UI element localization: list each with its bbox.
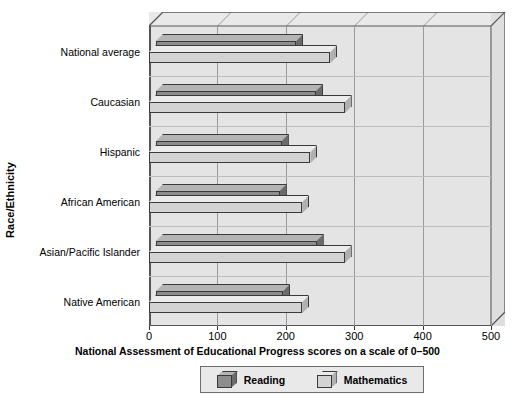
- plot-3d-top-face: [149, 12, 505, 26]
- y-axis-label-2: Hispanic: [100, 146, 140, 158]
- bar-top-face: [156, 84, 323, 91]
- gridline-top-100: [217, 12, 232, 26]
- category-band-separator: [149, 76, 491, 77]
- gridline-top-300: [354, 12, 369, 26]
- y-axis-title: Race/Ethnicity: [4, 162, 16, 238]
- legend-item-reading: Reading: [217, 371, 285, 388]
- y-axis-label-4: Asian/Pacific Islander: [40, 246, 140, 258]
- category-band-separator: [149, 176, 491, 177]
- bar-top-face: [149, 95, 352, 102]
- x-tick-label-400: 400: [413, 330, 431, 342]
- gridline-top-400: [423, 12, 438, 26]
- category-band-separator: [149, 226, 491, 227]
- plot-3d-right-face: [491, 12, 505, 326]
- legend-label-mathematics: Mathematics: [344, 374, 408, 386]
- bar-chart: Race/Ethnicity National averageCaucasian…: [0, 0, 515, 404]
- y-axis-label-5: Native American: [64, 296, 140, 308]
- x-tick-label-500: 500: [482, 330, 500, 342]
- bar-math-5: [149, 302, 302, 313]
- x-tick-label-200: 200: [277, 330, 295, 342]
- reading-swatch-icon: [217, 371, 238, 388]
- bar-top-face: [156, 34, 303, 41]
- plot-area: [149, 12, 505, 326]
- bar-top-face: [149, 195, 309, 202]
- bar-top-face: [149, 295, 309, 302]
- gridline-top-200: [286, 12, 301, 26]
- bar-front-face: [149, 52, 330, 63]
- legend-item-mathematics: Mathematics: [317, 371, 408, 388]
- x-tick-label-300: 300: [345, 330, 363, 342]
- bar-top-face: [156, 184, 287, 191]
- bar-top-face: [156, 284, 290, 291]
- x-tick-label-100: 100: [208, 330, 226, 342]
- x-axis-title: National Assessment of Educational Progr…: [0, 345, 515, 357]
- category-band-separator: [149, 276, 491, 277]
- bar-top-face: [149, 145, 317, 152]
- bar-math-4: [149, 252, 345, 263]
- mathematics-swatch-icon: [317, 371, 338, 388]
- legend-label-reading: Reading: [244, 374, 285, 386]
- y-axis-label-0: National average: [61, 46, 140, 58]
- y-axis-label-3: African American: [61, 196, 140, 208]
- gridline-500: [491, 26, 492, 326]
- plot-content: [149, 26, 491, 326]
- bar-front-face: [149, 252, 345, 263]
- chart-legend: Reading Mathematics: [200, 366, 424, 393]
- bar-top-face: [156, 234, 324, 241]
- bar-front-face: [149, 202, 302, 213]
- bar-front-face: [149, 302, 302, 313]
- y-axis-category-labels: National averageCaucasianHispanicAfrican…: [18, 14, 144, 326]
- bar-front-face: [149, 102, 345, 113]
- x-tick-label-0: 0: [146, 330, 152, 342]
- bar-math-1: [149, 102, 345, 113]
- x-axis: 0100200300400500: [149, 326, 505, 346]
- bar-top-face: [149, 245, 352, 252]
- bar-top-face: [156, 134, 289, 141]
- category-band-separator: [149, 126, 491, 127]
- bar-top-face: [149, 45, 337, 52]
- y-axis-label-1: Caucasian: [90, 96, 140, 108]
- bar-math-3: [149, 202, 302, 213]
- bar-front-face: [149, 152, 310, 163]
- bar-math-0: [149, 52, 330, 63]
- bar-math-2: [149, 152, 310, 163]
